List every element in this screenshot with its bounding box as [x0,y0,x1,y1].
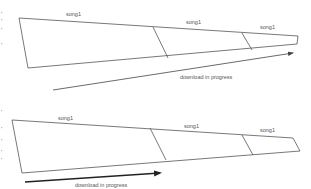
song-label: song1 [66,11,81,17]
top-diagram: song1 song1 song1 download in progress [19,11,298,90]
left-edge-marks-top [1,12,2,44]
download-progress-label: download in progress [180,74,233,80]
bottom-diagram: song1 song1 song1 download in progress [12,115,300,188]
song-strip-outline [12,120,300,173]
download-progress-arrow [53,53,293,90]
song-label: song1 [184,123,199,129]
download-progress-arrow [25,173,160,182]
segment-divider [150,128,166,160]
song-label: song1 [260,127,275,133]
song-label: song1 [260,24,275,30]
diagram-canvas: song1 song1 song1 download in progress s… [0,0,311,189]
download-progress-label: download in progress [75,182,128,188]
segment-divider [242,135,253,155]
song-label: song1 [58,115,73,121]
segment-divider [242,33,252,50]
song-label: song1 [186,19,201,25]
segment-divider [153,27,168,58]
song-strip-outline [19,18,298,68]
left-edge-marks-bottom [1,110,2,159]
